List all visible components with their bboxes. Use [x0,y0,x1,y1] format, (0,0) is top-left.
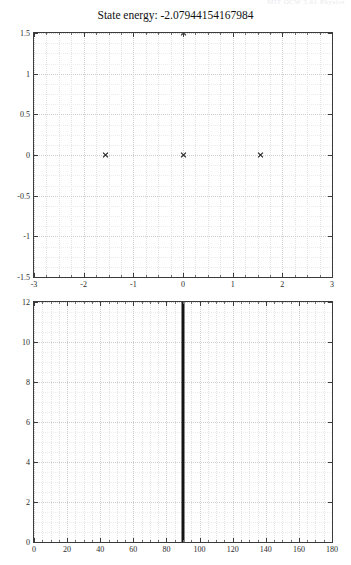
x-axis-tick [200,538,201,542]
y-axis-tick [328,422,332,423]
tick-minor [245,33,246,35]
tick-minor [158,275,159,277]
x-axis-tick [233,302,234,306]
x-axis-tick [100,538,101,542]
tick-minor [291,302,292,304]
x-axis-tick [133,273,134,277]
y-axis-tick-label: 10 [22,338,30,347]
y-axis-tick [328,462,332,463]
y-axis-tick [34,33,38,34]
y-axis-tick [328,302,332,303]
x-axis-tick [200,302,201,306]
tick-minor [92,302,93,304]
gridline-horizontal [34,74,332,75]
x-axis-tick [233,33,234,37]
y-axis-tick-label: -1.5 [17,273,30,282]
tick-minor [195,33,196,35]
x-axis-tick-label: 140 [260,545,272,554]
x-axis-tick [332,33,333,37]
tick-minor [51,302,52,304]
tick-minor [84,540,85,542]
tick-minor [270,33,271,35]
y-axis-tick-label: -1 [23,232,30,241]
tick-minor [208,302,209,304]
x-axis-tick [67,538,68,542]
tick-minor [249,540,250,542]
x-axis-tick-label: 80 [162,545,170,554]
x-axis-tick-label: 40 [96,545,104,554]
y-axis-tick [328,277,332,278]
tick-minor [220,33,221,35]
tick-minor [71,275,72,277]
tick-minor [216,302,217,304]
y-axis-tick-label: 2 [26,498,30,507]
tick-minor [158,302,159,304]
tick-minor [175,540,176,542]
tick-minor [125,302,126,304]
y-axis-tick [328,342,332,343]
x-axis-tick [332,273,333,277]
y-axis-tick-label: 6 [26,418,30,427]
y-axis-tick [34,74,38,75]
data-point-marker [102,152,109,159]
x-axis-tick-label: 60 [129,545,137,554]
tick-minor [109,540,110,542]
clipped-header-text: MIT OCW 5.61 Physics [267,0,345,6]
y-axis-tick-label: 0.5 [20,110,30,119]
tick-minor [274,302,275,304]
tick-minor [307,540,308,542]
tick-minor [42,302,43,304]
tick-minor [320,33,321,35]
tick-minor [220,275,221,277]
y-axis-tick [34,302,38,303]
tick-minor [75,540,76,542]
y-axis-tick-label: 12 [22,298,30,307]
x-axis-tick-label: 0 [181,280,185,289]
y-axis-tick-label: 8 [26,378,30,387]
x-axis-tick-label: 20 [63,545,71,554]
x-axis-tick [166,538,167,542]
x-axis-tick-label: -3 [31,280,38,289]
y-axis-tick [328,382,332,383]
tick-minor [295,33,296,35]
tick-minor [59,275,60,277]
x-axis-tick [233,538,234,542]
x-axis-tick [166,302,167,306]
y-axis-tick [34,422,38,423]
x-axis-tick-label: -1 [130,280,137,289]
x-axis-tick [67,302,68,306]
x-axis-tick [84,33,85,37]
tick-minor [121,275,122,277]
tick-minor [216,540,217,542]
tick-minor [282,540,283,542]
y-axis-tick-label: 0 [26,151,30,160]
tick-minor [183,540,184,542]
y-axis-tick [34,236,38,237]
y-axis-tick [328,33,332,34]
y-axis-tick [328,155,332,156]
tick-minor [175,302,176,304]
tick-minor [92,540,93,542]
tick-minor [320,275,321,277]
tick-minor [195,275,196,277]
x-axis-tick-label: 100 [194,545,206,554]
x-axis-tick-label: 120 [227,545,239,554]
tick-minor [109,275,110,277]
y-axis-tick-label: -0.5 [17,191,30,200]
bottom-plot-axes: 020406080100120140160180024681012 [33,301,333,543]
tick-minor [150,540,151,542]
tick-minor [59,302,60,304]
bottom-plot-area [34,302,332,542]
tick-minor [258,540,259,542]
tick-minor [51,540,52,542]
x-axis-tick [183,33,184,37]
x-axis-tick-label: 1 [231,280,235,289]
x-axis-tick-label: 180 [326,545,338,554]
x-axis-tick [266,302,267,306]
y-axis-tick [328,236,332,237]
tick-minor [150,302,151,304]
y-axis-tick [34,155,38,156]
tick-minor [146,275,147,277]
tick-minor [258,33,259,35]
tick-minor [324,302,325,304]
